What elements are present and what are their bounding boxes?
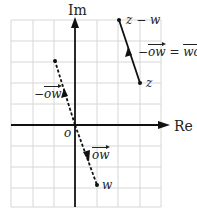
ow-overline: ow bbox=[92, 149, 110, 161]
neg-ow-vector-label: −ow bbox=[34, 88, 62, 100]
ow-overline: ow bbox=[148, 46, 166, 58]
origin-label: o bbox=[64, 127, 71, 139]
z-minus-w-label: z − w bbox=[126, 14, 160, 26]
wo-overline: wo bbox=[183, 46, 197, 58]
wo-vector-label: −ow = wo bbox=[138, 46, 197, 58]
neg-sign: − bbox=[138, 45, 148, 59]
z-label: z bbox=[146, 77, 152, 89]
real-axis bbox=[11, 121, 170, 129]
neg-sign: − bbox=[34, 87, 44, 101]
im-axis-label: Im bbox=[68, 3, 87, 17]
ow-overline: ow bbox=[44, 88, 62, 100]
imaginary-axis bbox=[71, 17, 79, 207]
equals-sign: = bbox=[169, 45, 179, 59]
complex-plane bbox=[0, 0, 197, 222]
ow-vector-label: ow bbox=[92, 149, 110, 161]
re-axis-label: Re bbox=[174, 119, 193, 133]
w-label: w bbox=[102, 179, 112, 191]
